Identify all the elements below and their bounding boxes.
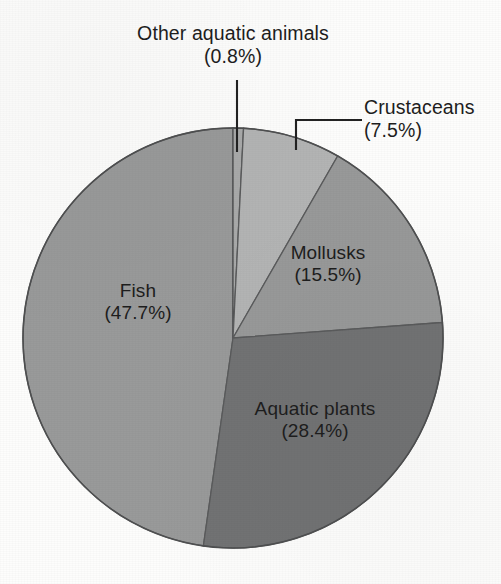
pie-label-aquatic-plants-name: Aquatic plants xyxy=(215,398,415,420)
pie-label-crustaceans-percent: (7.5%) xyxy=(364,119,500,142)
pie-label-fish-percent: (47.7%) xyxy=(78,302,198,324)
pie-label-mollusks-percent: (15.5%) xyxy=(258,264,398,286)
pie-label-fish: Fish (47.7%) xyxy=(78,280,198,324)
pie-label-fish-name: Fish xyxy=(78,280,198,302)
pie-slice-fish xyxy=(23,128,233,546)
pie-label-other-aquatic-animals-percent: (0.8%) xyxy=(0,45,466,68)
pie-label-crustaceans-name: Crustaceans xyxy=(364,96,500,119)
pie-label-aquatic-plants: Aquatic plants (28.4%) xyxy=(215,398,415,442)
pie-chart-figure: Other aquatic animals (0.8%) Crustaceans… xyxy=(0,0,501,584)
pie-label-other-aquatic-animals-name: Other aquatic animals xyxy=(0,22,466,45)
pie-label-mollusks-name: Mollusks xyxy=(258,242,398,264)
pie-chart-canvas xyxy=(0,0,501,584)
pie-label-mollusks: Mollusks (15.5%) xyxy=(258,242,398,286)
pie-label-aquatic-plants-percent: (28.4%) xyxy=(215,420,415,442)
pie-label-other-aquatic-animals: Other aquatic animals (0.8%) xyxy=(0,22,466,67)
pie-label-crustaceans: Crustaceans (7.5%) xyxy=(364,96,500,141)
